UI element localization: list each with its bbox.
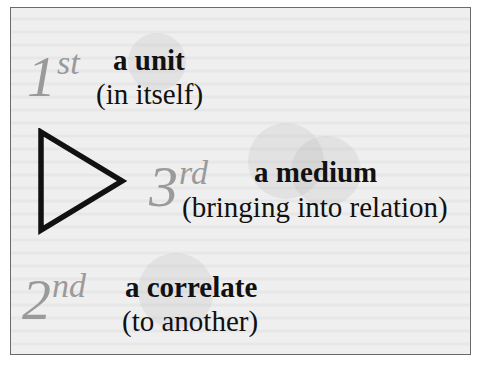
term-third: a medium (254, 158, 377, 187)
gloss-first: (in itself) (96, 80, 203, 109)
triangle-right-icon (36, 128, 136, 238)
term-second: a correlate (125, 273, 257, 302)
ordinal-first-number: 1 (27, 44, 56, 109)
gloss-third: (bringing into relation) (182, 193, 448, 222)
ordinal-second-suffix: nd (52, 267, 86, 304)
ordinal-first-suffix: st (57, 44, 80, 81)
term-first: a unit (113, 46, 185, 75)
ordinal-second: 2nd (22, 271, 86, 329)
diagram-frame: 1st a unit (in itself) 3rd a medium (bri… (10, 7, 471, 355)
ordinal-first: 1st (27, 48, 80, 106)
ordinal-third-number: 3 (149, 154, 178, 219)
ordinal-third-suffix: rd (179, 154, 208, 191)
gloss-second: (to another) (122, 307, 258, 336)
ordinal-second-number: 2 (22, 267, 51, 332)
